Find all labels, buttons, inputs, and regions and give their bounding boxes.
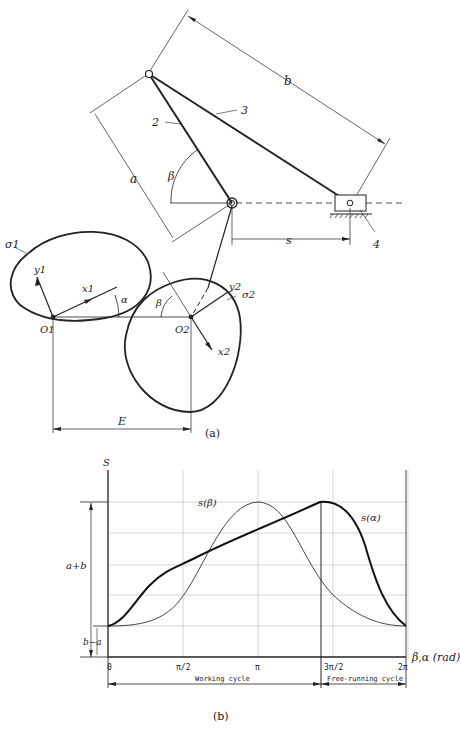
label-x2: x2	[218, 346, 230, 357]
x-tick-pi: π	[255, 663, 260, 672]
label-slider-4: 4	[372, 238, 380, 251]
label-O1: O1	[40, 324, 55, 335]
label-a: a	[130, 172, 137, 186]
label-link-2: 2	[151, 116, 159, 129]
label-sigma2: σ2	[242, 289, 255, 300]
x-tick-pi-half: π/2	[176, 663, 191, 672]
label-O2: O2	[175, 324, 190, 335]
free-running-cycle-label: Free-running cycle	[327, 675, 403, 683]
x-tick-3pi-half: 3π/2	[324, 663, 343, 672]
label-b: b	[284, 74, 292, 88]
dim-b-minus-a: b−a	[83, 637, 102, 647]
dim-a-plus-b: a+b	[66, 560, 87, 571]
label-y1: y1	[33, 264, 46, 275]
working-cycle-label: Working cycle	[195, 675, 250, 683]
label-sigma1: σ1	[5, 238, 20, 251]
label-alpha: α	[121, 294, 128, 305]
label-y2: y2	[228, 281, 241, 292]
label-E: E	[117, 415, 126, 428]
caption-a: (a)	[205, 427, 220, 440]
mechanism-diagram	[11, 10, 405, 433]
figure-canvas: b a 2 3 4 β s σ1 σ2 y1 x1 α O1 O2 y2 x2 …	[0, 0, 461, 731]
x-tick-2pi: 2π	[398, 663, 408, 672]
label-link-3: 3	[241, 104, 248, 117]
caption-b: (b)	[213, 710, 229, 723]
label-beta-2: β	[155, 297, 162, 308]
label-x1: x1	[82, 283, 94, 294]
label-s: s	[286, 234, 292, 247]
chart-grid	[108, 470, 408, 658]
x-tick-0: 0	[107, 663, 112, 672]
x-axis-label: β,α (rad)	[411, 651, 460, 664]
label-beta: β	[167, 170, 174, 183]
curve-label-beta: s(β)	[198, 497, 217, 508]
chart-axes	[80, 470, 406, 688]
curve-label-alpha: s(α)	[361, 512, 381, 523]
y-axis-label: S	[103, 457, 110, 468]
